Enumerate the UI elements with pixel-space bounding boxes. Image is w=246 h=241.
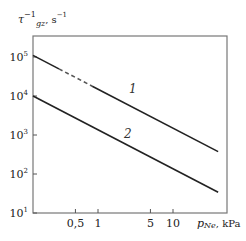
series-1-line <box>92 86 218 151</box>
chart: 101102103104105 0,51510 12 pNe, kPa <box>0 0 246 241</box>
curve-labels: 12 <box>123 82 137 141</box>
curve-label-1: 1 <box>129 82 137 96</box>
y-tick-label: 104 <box>10 89 29 103</box>
x-tick-label: 5 <box>147 217 154 230</box>
y-tick-label: 103 <box>10 128 28 142</box>
x-axis-label: pNe, kPa <box>197 217 240 230</box>
x-tick-label: 1 <box>95 217 102 230</box>
y-tick-label: 102 <box>10 167 28 181</box>
plot-frame <box>33 36 227 213</box>
y-tick-label: 101 <box>10 206 28 220</box>
x-axis-title: pNe, kPa <box>197 217 240 230</box>
series-1-line <box>33 55 59 68</box>
series-1-dashed <box>59 69 92 86</box>
curve-label-2: 2 <box>123 127 132 141</box>
x-tick-label: 10 <box>166 217 180 230</box>
series-lines <box>33 55 218 192</box>
series-2-line <box>33 96 218 192</box>
plot-border <box>33 36 227 213</box>
x-axis-ticks: 0,51510 <box>67 209 180 230</box>
y-tick-label: 105 <box>10 50 28 64</box>
x-tick-label: 0,5 <box>67 217 85 230</box>
